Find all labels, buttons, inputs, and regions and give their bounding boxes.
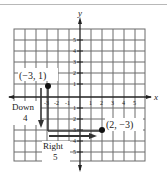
- y-tick-label: 3: [73, 127, 76, 133]
- y-tick-label: 3: [73, 59, 76, 65]
- move-down-label: Down: [12, 102, 34, 112]
- y-axis-arrow-up-icon: [78, 17, 82, 24]
- point-start: [45, 83, 51, 89]
- move-right-amount: 5: [53, 152, 58, 162]
- coordinate-plane: y x 5 4 3 2 1 1 2 3 4 5 -3 -2 -1 1 2 3 4…: [0, 0, 167, 182]
- move-down-amount: 4: [23, 113, 28, 123]
- x-tick-label: 3: [111, 100, 114, 106]
- x-tick-label: 4: [122, 100, 125, 106]
- y-tick-label: 1: [73, 81, 76, 87]
- y-axis-arrow-down-icon: [78, 165, 82, 172]
- x-tick-label: 1: [89, 100, 92, 106]
- y-tick-label: 5: [73, 37, 76, 43]
- x-axis-arrow-right-icon: [146, 95, 152, 99]
- move-right-label: Right: [43, 141, 64, 151]
- x-tick-label: 5: [133, 100, 136, 106]
- axes: [9, 20, 151, 170]
- y-tick-label: 4: [73, 138, 76, 144]
- point-end-label: (2, −3): [106, 119, 133, 131]
- y-tick-label: 5: [73, 149, 76, 155]
- y-tick-label: 4: [73, 48, 76, 54]
- y-tick-label: 2: [73, 116, 76, 122]
- x-tick-label: -1: [65, 100, 70, 106]
- point-start-label: (−3, 1): [19, 70, 46, 82]
- x-tick-label: 2: [100, 100, 103, 106]
- x-tick-label: -2: [54, 100, 59, 106]
- y-tick-label: 1: [73, 105, 76, 111]
- x-axis-arrow-left-icon: [8, 95, 14, 99]
- point-end: [99, 127, 105, 133]
- x-axis-label: x: [153, 92, 158, 102]
- y-tick-label: 2: [73, 70, 76, 76]
- y-axis-label: y: [77, 8, 82, 18]
